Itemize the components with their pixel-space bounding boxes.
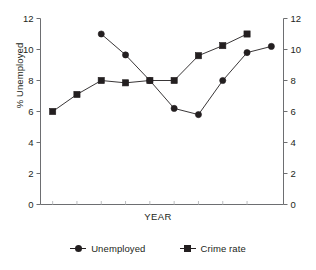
svg-text:0: 0: [28, 199, 33, 210]
svg-text:2: 2: [28, 168, 33, 179]
svg-text:8: 8: [28, 75, 33, 86]
svg-text:12: 12: [291, 13, 302, 24]
svg-text:6: 6: [28, 106, 33, 117]
svg-text:0: 0: [291, 199, 296, 210]
svg-text:2: 2: [291, 168, 296, 179]
circle-marker-icon: [70, 244, 86, 253]
svg-text:10: 10: [23, 44, 34, 55]
legend-item-crime-rate: Crime rate: [180, 243, 246, 254]
legend-label-crime-rate: Crime rate: [201, 243, 246, 254]
svg-text:8: 8: [291, 75, 296, 86]
svg-text:12: 12: [23, 13, 34, 24]
legend-label-unemployed: Unemployed: [91, 243, 145, 254]
legend-item-unemployed: Unemployed: [70, 243, 145, 254]
y-axis-label-left: % Unemployed: [14, 31, 25, 121]
svg-text:4: 4: [28, 137, 33, 148]
svg-text:10: 10: [291, 44, 302, 55]
svg-text:6: 6: [291, 106, 296, 117]
chart-plot-area: 002244668810101212: [0, 0, 316, 270]
x-axis-label: YEAR: [0, 211, 316, 222]
svg-text:4: 4: [291, 137, 296, 148]
chart-container: 002244668810101212 % Unemployed YEAR Une…: [0, 0, 316, 270]
square-marker-icon: [180, 244, 196, 253]
chart-legend: Unemployed Crime rate: [0, 243, 316, 254]
